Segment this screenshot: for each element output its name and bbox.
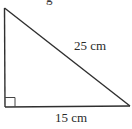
right-angle-marker: [5, 98, 15, 108]
hypotenuse-side: [5, 8, 131, 106]
base-label: 15 cm: [55, 110, 87, 125]
vertical-leg: [5, 8, 6, 107]
base-side: [5, 106, 130, 107]
cropped-caption-fragment: g: [46, 0, 53, 5]
triangle-diagram: g 25 cm 15 cm: [0, 0, 132, 129]
triangle-figure: g 25 cm 15 cm: [0, 0, 132, 129]
hypotenuse-label: 25 cm: [74, 38, 106, 53]
